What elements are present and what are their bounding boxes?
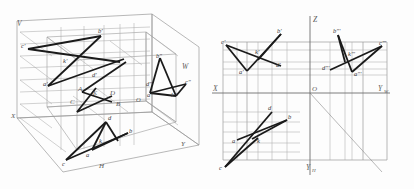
right-label-axis-YW-main: Y (378, 84, 383, 93)
left-label-d-plain: d (108, 114, 112, 121)
left-label-c-dprime: c" (185, 78, 191, 85)
right-label-a-prime: a' (239, 68, 244, 75)
right-label-c-plain: c (219, 164, 222, 171)
right-label-axis-YH-sub: H (311, 168, 316, 173)
w-plane (152, 14, 199, 145)
left-label-b-dprime: b" (156, 52, 162, 59)
right-label-b-tprime: b"' (333, 27, 341, 34)
h-projection-polyline (66, 122, 128, 160)
right-label-a-tprime: a"' (354, 70, 362, 77)
left-label-plane-V: V (17, 19, 23, 28)
right-label-d-tprime: d"' (322, 64, 330, 71)
left-label-c-plain: c (62, 160, 65, 167)
right-label-d-plain: d (268, 104, 272, 111)
v-projection-polyline (28, 36, 124, 86)
right-label-k-tprime: k"' (348, 50, 356, 57)
left-label-axis-Y: Y (181, 140, 186, 148)
left-label-a-plain: a (86, 151, 89, 158)
left-label-k-prime: k' (63, 57, 68, 64)
construction-frame (223, 42, 387, 160)
right-label-axis-X: X (212, 84, 218, 93)
w-projection-polyline (150, 58, 186, 96)
right-figure-group: Z X Y W Y H O c' b' k' a' d' b"' c"' k"'… (212, 15, 390, 175)
right-label-k-plain: k (257, 137, 260, 144)
left-label-b-plain: b (129, 127, 133, 134)
left-label-axis-X: X (10, 112, 16, 120)
left-label-space-A: A (77, 85, 83, 93)
right-label-c-tprime: c"' (379, 39, 387, 46)
right-label-k-prime: k' (255, 48, 260, 55)
left-label-space-B: B (116, 100, 121, 108)
right-label-c-prime: c' (221, 38, 226, 45)
descriptive-geometry-diagram: V W H X Y O c' b' k' a' d' b" c" k" a" d… (0, 0, 414, 189)
left-label-space-K: K (92, 90, 98, 96)
right-label-a-plain: a (232, 137, 235, 144)
left-label-b-prime: b' (98, 27, 103, 34)
right-label-axis-YH: Y H (306, 163, 316, 173)
right-label-axis-Z: Z (313, 15, 318, 24)
left-label-d-prime: d' (92, 71, 97, 78)
left-figure-group: V W H X Y O c' b' k' a' d' b" c" k" a" d… (10, 14, 199, 172)
left-label-k-plain: k (99, 137, 102, 144)
right-label-b-plain: b (288, 113, 292, 120)
left-label-a-dprime: a" (147, 91, 153, 98)
side-view-polyline (330, 35, 382, 72)
left-label-c-prime: c' (21, 42, 26, 49)
left-label-origin-O: O (136, 96, 141, 103)
diagram-canvas: V W H X Y O c' b' k' a' d' b" c" k" a" d… (0, 0, 414, 189)
right-label-b-prime: b' (277, 27, 282, 34)
left-label-plane-W: W (182, 62, 189, 71)
front-view-polyline (226, 34, 281, 71)
left-label-k-dprime: k" (171, 91, 177, 98)
left-label-space-C: C (70, 98, 75, 106)
left-label-space-D: D (109, 89, 115, 97)
left-label-plane-H: H (98, 162, 105, 170)
right-label-origin-O: O (312, 85, 317, 93)
left-label-a-prime: a' (43, 80, 48, 87)
left-label-d-dprime: d" (146, 80, 152, 87)
right-label-d-prime: d' (276, 61, 281, 68)
